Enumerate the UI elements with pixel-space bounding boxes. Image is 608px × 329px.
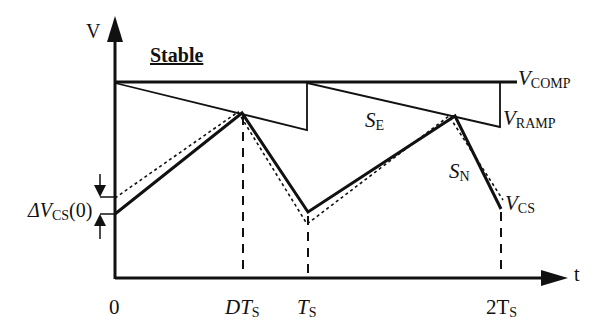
v-ramp-sub: RAMP [516,116,556,131]
v-ramp-main: V [503,106,516,130]
v-ramp-label: VRAMP [503,108,556,129]
v-cs-label: VCS [505,193,535,214]
tick-0-main: 0 [109,295,120,319]
tick-ts-sub: S [309,305,317,320]
s-n-label: SN [449,161,470,182]
tick-ts: TS [297,297,316,318]
x-axis-arrow-icon [541,270,568,286]
tick-0: 0 [109,297,120,318]
v-cs-sub: CS [518,201,535,216]
v-cs-main: V [505,191,518,215]
tick-ts-main: T [297,295,309,319]
arrow-down-icon [94,185,106,197]
v-comp-sub: COMP [531,76,571,91]
s-n-sub: N [460,169,470,184]
time-guide-lines [243,116,501,276]
s-n-main: S [449,159,460,183]
arrow-up-icon [94,214,106,226]
tick-dts: DTS [225,297,260,318]
tick-2ts-sub: S [509,305,517,320]
delta-vcs-label: ΔVCS(0) [28,200,92,220]
diagram-canvas [0,0,608,329]
y-axis-arrow-icon [107,16,123,42]
s-e-sub: E [376,118,385,133]
delta-vcs-sub: CS [52,208,69,223]
x-axis-label: t [574,264,580,284]
delta-vcs-main: ΔV [28,199,52,221]
peak-current-mode-timing-diagram: V t Stable VCOMP VRAMP SE SN VCS ΔVCS(0)… [0,0,608,329]
v-comp-main: V [518,66,531,90]
tick-dts-main: DT [225,295,252,319]
tick-dts-sub: S [252,305,260,320]
tick-2ts-main: 2T [486,295,509,319]
delta-vcs-indicator [94,174,115,239]
delta-vcs-suffix: (0) [69,199,92,221]
diagram-title: Stable [150,45,203,65]
v-cs-waveform [115,113,501,214]
tick-2ts: 2TS [486,297,517,318]
y-axis-label: V [86,21,100,41]
s-e-label: SE [365,110,384,131]
s-e-main: S [365,108,376,132]
v-comp-label: VCOMP [518,68,571,89]
